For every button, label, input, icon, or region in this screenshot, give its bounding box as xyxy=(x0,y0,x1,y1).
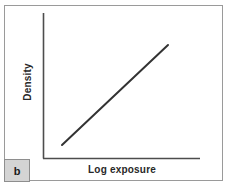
data-line-characteristic-curve xyxy=(62,45,168,145)
y-axis-label: Density xyxy=(20,42,36,122)
panel-label-b: b xyxy=(4,159,30,182)
plot-area: Density Log exposure xyxy=(0,0,229,189)
figure-panel: Density Log exposure b xyxy=(0,0,229,189)
x-axis-label: Log exposure xyxy=(43,164,201,175)
